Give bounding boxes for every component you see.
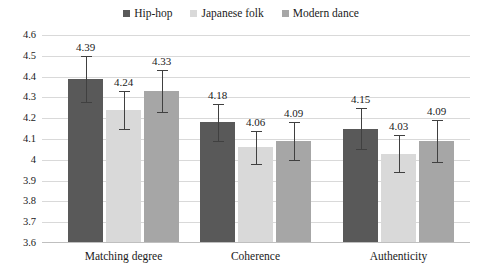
error-bar-cap-lower: [81, 102, 92, 103]
error-bar: [399, 135, 400, 172]
y-axis-tick-label: 4: [0, 154, 36, 165]
data-label: 4.24: [108, 76, 140, 88]
legend-swatch-icon: [123, 10, 130, 17]
legend-item: Hip-hop: [123, 7, 172, 19]
bar: [144, 91, 179, 243]
data-label: 4.33: [146, 55, 178, 67]
x-axis-category-label: Matching degree: [64, 250, 184, 263]
legend-swatch-icon: [282, 10, 289, 17]
error-bar: [86, 56, 87, 102]
y-axis-tick-label: 3.8: [0, 195, 36, 206]
data-label: 4.15: [345, 93, 377, 105]
gridline: [42, 77, 470, 78]
error-bar-cap-lower: [356, 149, 367, 150]
error-bar: [162, 70, 163, 112]
error-bar-cap-lower: [251, 164, 262, 165]
error-bar-cap-lower: [119, 129, 130, 130]
bar-chart: Hip-hopJapanese folkModern dance 4.64.54…: [0, 0, 482, 277]
x-axis-line: [42, 242, 470, 243]
y-axis-tick-label: 4.2: [0, 112, 36, 123]
error-bar: [218, 104, 219, 141]
legend-item-label: Modern dance: [293, 7, 359, 19]
y-axis-tick-label: 3.6: [0, 237, 36, 248]
error-bar-cap-upper: [432, 120, 443, 121]
error-bar: [437, 120, 438, 162]
error-bar: [294, 122, 295, 159]
gridline: [42, 56, 470, 57]
error-bar-cap-upper: [356, 108, 367, 109]
data-label: 4.39: [70, 41, 102, 53]
error-bar-cap-upper: [81, 56, 92, 57]
x-axis-category-label: Authenticity: [339, 250, 459, 263]
gridline: [42, 35, 470, 36]
error-bar: [256, 131, 257, 164]
legend-swatch-icon: [190, 10, 197, 17]
error-bar-cap-lower: [213, 141, 224, 142]
error-bar-cap-lower: [157, 112, 168, 113]
data-label: 4.06: [240, 116, 272, 128]
y-axis-tick-label: 4.1: [0, 133, 36, 144]
error-bar-cap-lower: [289, 160, 300, 161]
error-bar: [361, 108, 362, 150]
y-axis-tick-label: 3.9: [0, 175, 36, 186]
x-axis-category-label: Coherence: [196, 250, 316, 263]
y-axis-tick-label: 3.7: [0, 216, 36, 227]
bar: [68, 79, 103, 243]
error-bar-cap-upper: [157, 70, 168, 71]
y-axis-tick-label: 4.5: [0, 50, 36, 61]
data-label: 4.09: [421, 105, 453, 117]
legend-item: Japanese folk: [190, 7, 263, 19]
data-label: 4.18: [202, 89, 234, 101]
legend-item-label: Hip-hop: [134, 7, 172, 19]
y-axis-tick-label: 4.4: [0, 71, 36, 82]
error-bar-cap-upper: [394, 135, 405, 136]
error-bar-cap-upper: [289, 122, 300, 123]
legend-item-label: Japanese folk: [201, 7, 263, 19]
y-axis-tick-label: 4.6: [0, 29, 36, 40]
data-label: 4.03: [383, 120, 415, 132]
error-bar-cap-lower: [394, 172, 405, 173]
error-bar-cap-upper: [213, 104, 224, 105]
y-axis-tick-label: 4.3: [0, 91, 36, 102]
plot-area: [42, 35, 470, 243]
error-bar-cap-lower: [432, 162, 443, 163]
error-bar: [124, 91, 125, 128]
bar: [106, 110, 141, 243]
gridline: [42, 97, 470, 98]
error-bar-cap-upper: [251, 131, 262, 132]
data-label: 4.09: [278, 107, 310, 119]
chart-legend: Hip-hopJapanese folkModern dance: [0, 4, 482, 22]
legend-item: Modern dance: [282, 7, 359, 19]
error-bar-cap-upper: [119, 91, 130, 92]
